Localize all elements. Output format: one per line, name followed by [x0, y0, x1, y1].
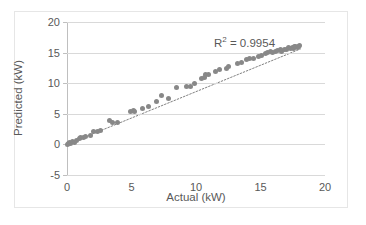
- x-axis-title: Actual (kW): [67, 191, 325, 203]
- y-tick-label: 10: [48, 77, 60, 89]
- gridline-y: [67, 175, 325, 176]
- y-axis-title: Predicted (kW): [12, 60, 24, 136]
- y-tick-label: 15: [48, 47, 60, 59]
- y-tick-mark: [63, 22, 67, 23]
- data-point: [140, 106, 145, 111]
- gridline-y: [67, 22, 325, 23]
- y-tick-label: 0: [54, 138, 60, 150]
- chart-screenshot: -50510152005101520 Actual (kW) Predicted…: [0, 0, 366, 225]
- data-point: [174, 85, 179, 90]
- y-tick-label: 20: [48, 16, 60, 28]
- gridline-y: [67, 144, 325, 145]
- y-tick-label: 5: [54, 108, 60, 120]
- y-tick-mark: [63, 53, 67, 54]
- plot-area: -50510152005101520: [67, 22, 325, 175]
- data-point: [192, 81, 197, 86]
- r-squared-annotation: R2 = 0.9954: [214, 35, 275, 49]
- data-point: [206, 72, 211, 77]
- gridline-y: [67, 53, 325, 54]
- data-point: [115, 120, 120, 125]
- y-tick-mark: [63, 83, 67, 84]
- y-tick-mark: [63, 114, 67, 115]
- y-tick-mark: [63, 175, 67, 176]
- gridline-y: [67, 114, 325, 115]
- y-tick-label: -5: [50, 169, 60, 181]
